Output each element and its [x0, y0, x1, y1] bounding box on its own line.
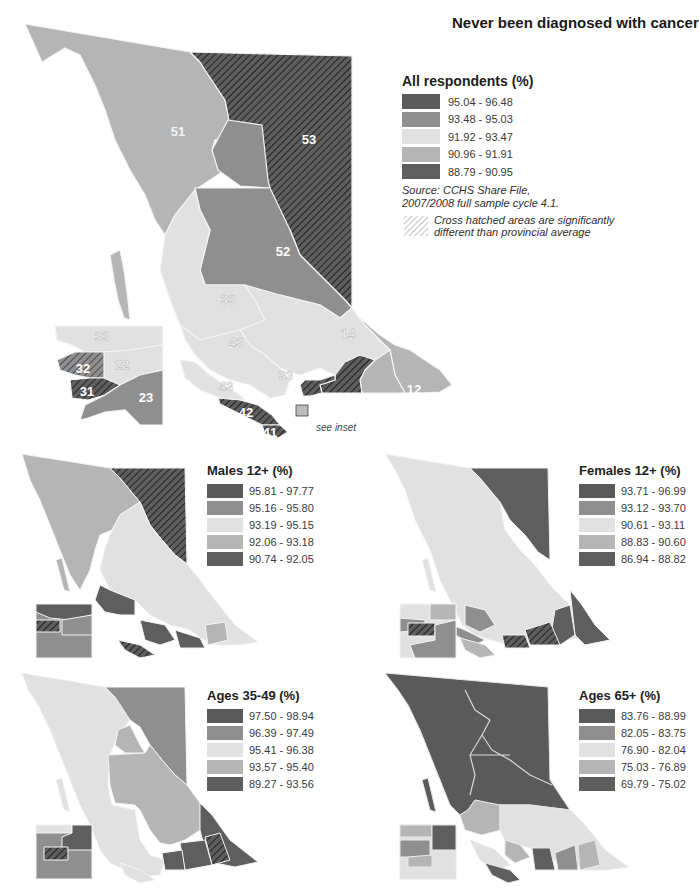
inset-label-33: 33	[95, 329, 109, 344]
legend-swatch-4	[207, 535, 243, 549]
legend-range: 83.76 - 88.99	[621, 710, 686, 722]
legend-row: 93.48 - 95.03	[402, 111, 614, 129]
legend-range: 76.90 - 82.04	[621, 744, 686, 756]
legend-row: 95.81 - 97.77	[207, 482, 314, 499]
legend-range: 92.06 - 93.18	[249, 536, 314, 548]
legend-swatch-2	[207, 501, 243, 515]
legend-range: 93.19 - 95.15	[249, 519, 314, 531]
hatch-note-line-1: Cross hatched areas are significantly	[434, 214, 614, 226]
legend-swatch-1	[579, 709, 615, 723]
legend-row: 95.41 - 96.38	[207, 741, 314, 758]
ages65-legend: Ages 65+ (%) 83.76 - 88.99 82.05 - 83.75…	[579, 688, 686, 792]
legend-range: 82.05 - 83.75	[621, 727, 686, 739]
legend-range: 93.12 - 93.70	[621, 502, 686, 514]
legend-swatch-5	[579, 777, 615, 791]
legend-swatch-1	[207, 484, 243, 498]
males-legend: Males 12+ (%) 95.81 - 97.77 95.16 - 95.8…	[207, 463, 314, 567]
legend-range: 86.94 - 88.82	[621, 553, 686, 565]
legend-range: 97.50 - 98.94	[249, 710, 314, 722]
legend-row: 76.90 - 82.04	[579, 741, 686, 758]
region-haida-gwaii	[110, 250, 130, 320]
label-11: 11	[449, 369, 463, 384]
females-legend: Females 12+ (%) 93.71 - 96.99 93.12 - 93…	[579, 463, 686, 567]
hatch-note: Cross hatched areas are significantly di…	[402, 214, 614, 238]
inset-label-31: 31	[80, 384, 94, 399]
legend-row: 92.06 - 93.18	[207, 533, 314, 550]
legend-row: 95.04 - 96.48	[402, 93, 614, 111]
legend-swatch-3	[402, 129, 440, 144]
legend-range: 90.61 - 93.11	[621, 519, 685, 531]
legend-row: 93.71 - 96.99	[579, 482, 686, 499]
legend-swatch-5	[207, 552, 243, 566]
legend-swatch-5	[579, 552, 615, 566]
legend-row: 88.79 - 90.95	[402, 163, 614, 181]
legend-row: 83.76 - 88.99	[579, 707, 686, 724]
legend-range: 75.03 - 76.89	[621, 761, 686, 773]
legend-range: 95.81 - 97.77	[249, 485, 314, 497]
label-33: 33	[221, 292, 235, 307]
legend-swatch-3	[579, 518, 615, 532]
see-inset-label: see inset	[316, 422, 356, 433]
label-14: 14	[341, 326, 356, 341]
legend-row: 69.79 - 75.02	[579, 775, 686, 792]
hatch-note-line-2: different than provincial average	[434, 226, 614, 238]
legend-row: 93.19 - 95.15	[207, 516, 314, 533]
legend-row: 89.27 - 93.56	[207, 775, 314, 792]
legend-swatch-2	[207, 726, 243, 740]
legend-range: 95.16 - 95.80	[249, 502, 314, 514]
legend-swatch-5	[207, 777, 243, 791]
label-33-south: 33	[279, 368, 293, 383]
legend-range: 89.27 - 93.56	[249, 778, 314, 790]
legend-swatch-4	[402, 147, 440, 162]
source-line-2: 2007/2008 full sample cycle 4.1.	[402, 197, 614, 210]
legend-swatch-1	[579, 484, 615, 498]
legend-row: 96.39 - 97.49	[207, 724, 314, 741]
legend-row: 90.96 - 91.91	[402, 146, 614, 164]
legend-title: Ages 35-49 (%)	[207, 688, 314, 703]
legend-row: 88.83 - 90.60	[579, 533, 686, 550]
legend-swatch-5	[402, 164, 440, 179]
label-12: 12	[407, 382, 421, 397]
label-43: 43	[229, 335, 243, 350]
hatch-legend-icon	[402, 214, 430, 238]
legend-row: 93.12 - 93.70	[579, 499, 686, 516]
legend-swatch-3	[207, 518, 243, 532]
label-13: 13	[361, 390, 375, 405]
legend-range: 93.48 - 95.03	[448, 113, 513, 125]
label-51: 51	[171, 124, 185, 139]
legend-title: Females 12+ (%)	[579, 463, 686, 478]
source-note: Source: CCHS Share File, 2007/2008 full …	[402, 184, 614, 210]
legend-swatch-2	[579, 726, 615, 740]
legend-title: All respondents (%)	[402, 73, 614, 89]
legend-swatch-1	[207, 709, 243, 723]
legend-row: 86.94 - 88.82	[579, 550, 686, 567]
legend-swatch-3	[207, 743, 243, 757]
legend-row: 95.16 - 95.80	[207, 499, 314, 516]
legend-swatch-2	[402, 112, 440, 127]
legend-swatch-2	[579, 501, 615, 515]
legend-swatch-1	[402, 94, 440, 109]
inset-map	[55, 325, 165, 425]
ages35-legend: Ages 35-49 (%) 97.50 - 98.94 96.39 - 97.…	[207, 688, 314, 792]
legend-swatch-4	[579, 535, 615, 549]
legend-row: 90.74 - 92.05	[207, 550, 314, 567]
legend-range: 93.71 - 96.99	[621, 485, 686, 497]
inset-locator	[296, 405, 308, 416]
label-42: 42	[239, 405, 253, 420]
legend-range: 90.74 - 92.05	[249, 553, 314, 565]
legend-range: 90.96 - 91.91	[448, 148, 513, 160]
legend-row: 82.05 - 83.75	[579, 724, 686, 741]
inset-label-32: 32	[76, 361, 90, 376]
legend-swatch-4	[207, 760, 243, 774]
legend-range: 69.79 - 75.02	[621, 778, 686, 790]
source-line-1: Source: CCHS Share File,	[402, 184, 614, 197]
legend-range: 93.57 - 95.40	[249, 761, 314, 773]
label-53: 53	[302, 132, 316, 147]
main-legend: All respondents (%) 95.04 - 96.48 93.48 …	[402, 73, 614, 238]
legend-range: 95.04 - 96.48	[448, 96, 513, 108]
inset-label-22: 22	[115, 357, 129, 372]
label-52: 52	[276, 244, 290, 259]
label-21: 21	[318, 398, 332, 413]
legend-range: 96.39 - 97.49	[249, 727, 314, 739]
legend-swatch-3	[579, 743, 615, 757]
